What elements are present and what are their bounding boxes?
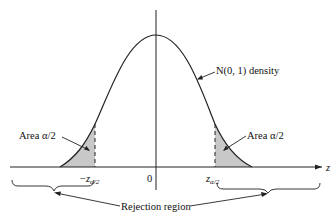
right-critical-label: zα/2: [205, 173, 220, 186]
rejection-pointer-left: [56, 193, 120, 206]
left-area-label: Area α/2: [19, 130, 56, 141]
right-area-label: Area α/2: [247, 130, 284, 141]
origin-label: 0: [147, 173, 152, 184]
rejection-pointer-right: [190, 194, 266, 206]
left-tail-shade: [60, 124, 95, 167]
curve-label: N(0, 1) density: [216, 65, 280, 77]
rejection-arrow-left-icon: [54, 192, 61, 197]
rejection-arrow-right-icon: [261, 192, 268, 197]
rejection-region-label: Rejection region: [121, 201, 191, 212]
left-critical-label: −zα/2: [80, 173, 100, 186]
x-axis-label: z: [325, 162, 330, 173]
normal-density-diagram: N(0, 1) density Area α/2 Area α/2 −zα/2 …: [0, 0, 335, 224]
curve-label-arrow-icon: [197, 75, 203, 80]
right-rejection-brace: [217, 183, 320, 193]
x-axis-arrow-icon: [315, 165, 322, 170]
